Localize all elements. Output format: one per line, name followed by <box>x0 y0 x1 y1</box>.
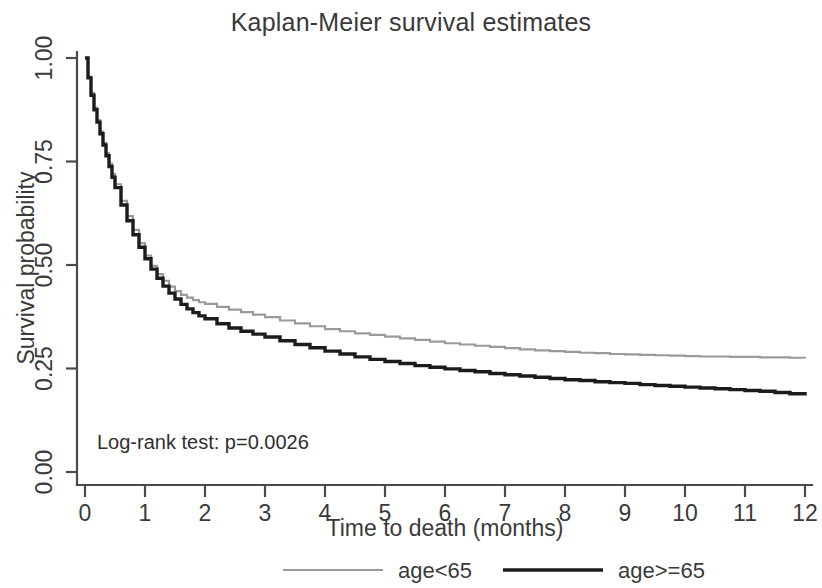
x-tick-label: 10 <box>672 500 698 526</box>
y-axis-title: Survival probability <box>13 171 39 365</box>
y-axis-ticks <box>66 58 77 472</box>
x-tick-label: 12 <box>792 500 818 526</box>
survival-curve-age-gte-65 <box>85 58 805 395</box>
y-tick-label: 0.00 <box>31 450 57 495</box>
survival-plot: 0.000.250.500.751.00 0123456789101112 Su… <box>0 0 822 588</box>
legend-label-age-gte-65: age>=65 <box>618 558 705 583</box>
x-tick-label: 9 <box>619 500 632 526</box>
kaplan-meier-figure: Kaplan-Meier survival estimates 0.000.25… <box>0 0 822 588</box>
x-axis-title: Time to death (months) <box>327 515 564 541</box>
x-tick-label: 2 <box>199 500 212 526</box>
legend: age<65 age>=65 <box>283 558 705 583</box>
logrank-annotation: Log-rank test: p=0.0026 <box>97 431 309 453</box>
survival-curves <box>85 58 805 395</box>
legend-label-age-lt-65: age<65 <box>398 558 472 583</box>
x-tick-label: 0 <box>79 500 92 526</box>
x-tick-label: 11 <box>733 500 757 526</box>
x-tick-label: 1 <box>139 500 152 526</box>
y-tick-label: 1.00 <box>31 36 57 81</box>
x-axis-ticks <box>85 485 805 497</box>
x-tick-label: 3 <box>259 500 272 526</box>
